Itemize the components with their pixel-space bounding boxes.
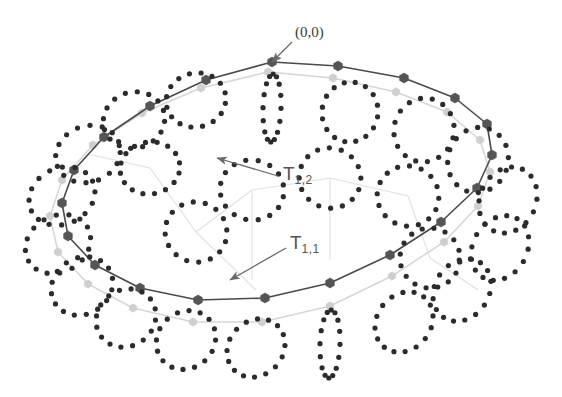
cluster-dot [244, 320, 249, 325]
cluster-dot [213, 207, 218, 212]
cluster-dot [319, 365, 324, 370]
connector-segment [88, 154, 150, 168]
cluster-dot [320, 105, 325, 110]
cluster-dot [278, 93, 283, 98]
cluster-dot [488, 279, 493, 284]
cluster-dot [104, 105, 109, 110]
T_1,2-vertex [46, 212, 53, 220]
cluster-dot [425, 159, 430, 164]
cluster-dot [168, 84, 173, 89]
cluster-dot [349, 154, 354, 159]
cluster-dot [140, 191, 145, 196]
cluster-dot [64, 132, 69, 137]
cluster-dot [177, 160, 182, 165]
cluster-dot [411, 290, 416, 295]
cluster-dot [506, 155, 511, 160]
cluster-dot [318, 354, 323, 359]
cluster-dot [441, 315, 446, 320]
cluster-dot [163, 231, 168, 236]
cluster-dot [165, 317, 170, 322]
cluster-dot [143, 140, 148, 145]
cluster-dot [526, 234, 531, 239]
torus-lattice-plot [0, 0, 562, 397]
cluster-dot [211, 119, 216, 124]
cluster-dot [468, 256, 473, 261]
cluster-dot [262, 129, 267, 134]
T_1,1-vertex [400, 73, 409, 83]
cluster-dot [433, 207, 438, 212]
cluster-dot [334, 366, 339, 371]
cluster-dot [372, 325, 377, 330]
cluster-dot [174, 252, 179, 257]
cluster-dot [164, 220, 169, 225]
cluster-dot [403, 153, 408, 158]
cluster-dot [223, 90, 228, 95]
cluster-dot [83, 180, 88, 185]
cluster-dot [447, 147, 452, 152]
cluster-dot [267, 213, 272, 218]
cluster-dot [416, 222, 421, 227]
cluster-dot [375, 114, 380, 119]
cluster-dot [342, 139, 347, 144]
cluster-dot [123, 91, 128, 96]
connector-segment [196, 190, 252, 232]
cluster-dot [446, 279, 451, 284]
cluster-dot [66, 212, 71, 217]
cluster-dot [160, 358, 165, 363]
cluster-dot [75, 125, 80, 130]
cluster-dot [110, 276, 115, 281]
cluster-dot [376, 203, 381, 208]
cluster-dot [534, 184, 539, 189]
cluster-dot [107, 341, 112, 346]
T_1,1-vertex [58, 198, 67, 208]
T_1,1-vertex [326, 278, 335, 288]
cluster-dot [407, 163, 412, 168]
T_1,2-vertex [129, 304, 136, 312]
T_1,2-vertex [329, 74, 336, 82]
cluster-dot [36, 176, 41, 181]
cluster-dot [61, 309, 66, 314]
cluster-dot [401, 240, 406, 245]
cluster-dot [404, 274, 409, 279]
cluster-dot [473, 312, 478, 317]
cluster-dot [173, 151, 178, 156]
cluster-dot [509, 164, 514, 169]
label-t-1-1: T1,1 [290, 232, 320, 256]
cluster-dot [154, 337, 159, 342]
cluster-dot [324, 94, 329, 99]
cluster-dot [520, 167, 525, 172]
cluster-dot [170, 210, 175, 215]
label-t-1-1-sub: 1,1 [302, 242, 320, 256]
cluster-dot [321, 317, 326, 322]
cluster-dot [232, 212, 237, 217]
cluster-dot [430, 313, 435, 318]
cluster-dot [534, 197, 539, 202]
T_1,1-vertex [146, 101, 155, 111]
cluster-dot [504, 168, 509, 173]
cluster-dot [224, 227, 229, 232]
cluster-dot [256, 158, 261, 163]
cluster-dot [218, 181, 223, 186]
cluster-dot [118, 345, 123, 350]
cluster-dot [107, 136, 112, 141]
cluster-dot [383, 213, 388, 218]
cluster-dot [421, 294, 426, 299]
cluster-dot [54, 212, 59, 217]
cluster-dot [469, 244, 474, 249]
cluster-dot [72, 219, 77, 224]
cluster-dot [75, 255, 80, 260]
cluster-dot [275, 130, 280, 135]
cluster-dot [109, 287, 114, 292]
cluster-dot [148, 296, 153, 301]
cluster-dot [378, 180, 383, 185]
cluster-dot [451, 123, 456, 128]
cluster-dot [337, 342, 342, 347]
cluster-dot [106, 293, 111, 298]
cluster-dot [299, 187, 304, 192]
arrow-t11 [230, 248, 286, 280]
cluster-dot [85, 224, 90, 229]
cluster-dot [99, 334, 104, 339]
cluster-dot [339, 148, 344, 153]
label-t-1-2-base: T [283, 163, 295, 184]
cluster-dot [305, 154, 310, 159]
